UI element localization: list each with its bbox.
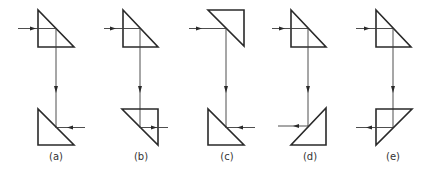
arrow-icon (366, 126, 372, 130)
input-beam (18, 29, 56, 129)
arrow-icon (364, 27, 370, 31)
input-beam (104, 29, 140, 129)
input-beam (356, 29, 393, 129)
bottom-prism (376, 109, 412, 145)
arrow-icon (224, 86, 228, 93)
arrow-icon (279, 27, 285, 31)
panel-a (18, 10, 85, 145)
panel-label-a: (a) (41, 151, 71, 162)
arrow-icon (67, 126, 73, 130)
prism-diagram (0, 0, 432, 173)
panel-label-e: (e) (378, 151, 408, 162)
arrow-icon (54, 86, 58, 93)
arrow-icon (30, 27, 36, 31)
arrow-icon (151, 126, 157, 130)
panel-b (104, 10, 168, 145)
arrow-icon (196, 27, 202, 31)
arrow-icon (138, 86, 142, 93)
panel-label-c: (c) (212, 151, 242, 162)
panel-label-d: (d) (295, 151, 325, 162)
arrow-icon (391, 86, 395, 93)
arrow-icon (293, 124, 299, 128)
arrow-icon (237, 126, 243, 130)
panel-label-b: (b) (126, 151, 156, 162)
panel-d (272, 10, 326, 145)
arrow-icon (110, 27, 116, 31)
panel-e (356, 10, 412, 145)
input-beam (272, 29, 308, 127)
arrow-icon (306, 86, 310, 93)
panel-c (189, 10, 255, 145)
